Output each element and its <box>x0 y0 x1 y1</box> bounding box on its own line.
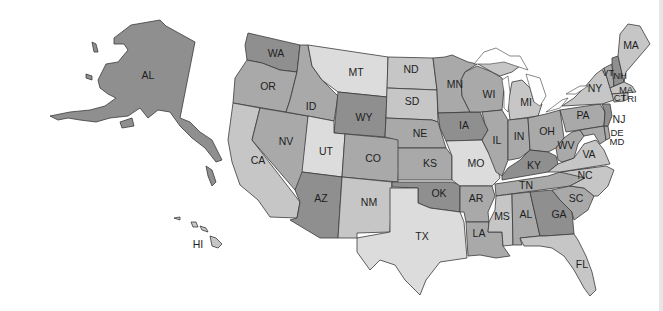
label-nv: NV <box>279 135 294 147</box>
label-ar: AR <box>469 192 484 204</box>
label-ga: GA <box>551 208 566 220</box>
label-in: IN <box>514 130 525 142</box>
alaska-island <box>120 118 134 128</box>
label-nm: NM <box>361 196 377 208</box>
label-hi: HI <box>193 238 204 250</box>
label-az: AZ <box>314 192 328 204</box>
label-mo: MO <box>468 157 485 169</box>
state-alaska[interactable] <box>50 20 222 162</box>
label-ny: NY <box>588 82 603 94</box>
label-massachusetts: MA <box>619 84 634 95</box>
label-or: OR <box>260 80 276 92</box>
label-mi: MI <box>520 96 532 108</box>
hawaii-island <box>174 217 180 220</box>
state-hawaii[interactable] <box>210 236 222 248</box>
label-alaska: AL <box>142 69 155 81</box>
label-pa: PA <box>576 109 589 121</box>
label-nc: NC <box>577 169 593 181</box>
label-ms: MS <box>494 210 510 222</box>
label-tx: TX <box>415 230 428 242</box>
label-oh: OH <box>539 125 555 137</box>
label-sc: SC <box>569 192 584 204</box>
label-va: VA <box>582 148 595 160</box>
label-ky: KY <box>527 159 541 171</box>
label-ne: NE <box>413 127 428 139</box>
label-wv: WV <box>558 139 575 151</box>
label-wa: WA <box>268 47 285 59</box>
label-alabama: AL <box>520 208 533 220</box>
label-co: CO <box>365 152 381 164</box>
label-wy: WY <box>356 111 373 123</box>
label-md: MD <box>610 136 625 147</box>
hawaii-island <box>200 226 208 232</box>
hawaii-island <box>191 222 198 227</box>
label-ca: CA <box>251 154 266 166</box>
label-ia: IA <box>459 119 469 131</box>
label-fl: FL <box>576 258 588 270</box>
label-ok: OK <box>431 187 446 199</box>
label-mn: MN <box>447 78 463 90</box>
label-maine: MA <box>623 39 639 51</box>
label-tn: TN <box>519 179 533 191</box>
label-ut: UT <box>319 145 334 157</box>
alaska-island <box>92 42 98 52</box>
label-ks: KS <box>423 157 437 169</box>
label-nd: ND <box>403 63 419 75</box>
label-nh: NH <box>613 70 627 81</box>
label-nj: NJ <box>613 113 626 125</box>
label-il: IL <box>493 134 502 146</box>
label-wi: WI <box>483 88 496 100</box>
label-id: ID <box>306 100 317 112</box>
alaska-island <box>86 74 92 80</box>
us-map: AL HI WA OR CA ID NV MT WY UT CO AZ NM N… <box>0 0 663 311</box>
alaska-panhandle <box>206 166 216 186</box>
label-la: LA <box>473 227 486 239</box>
label-sd: SD <box>405 95 420 107</box>
label-mt: MT <box>348 66 364 78</box>
